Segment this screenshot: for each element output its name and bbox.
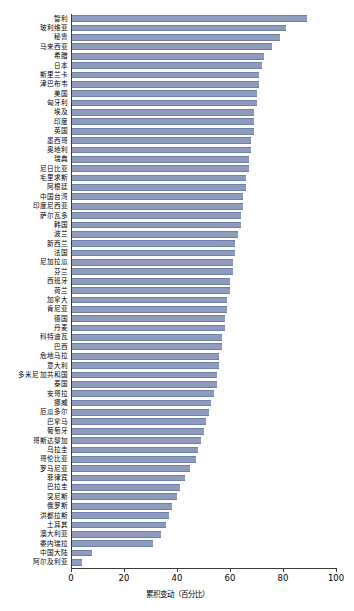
bar xyxy=(71,540,153,547)
category-label: 西班牙 xyxy=(47,278,68,285)
bar xyxy=(71,343,222,350)
x-tick xyxy=(336,568,337,572)
bar xyxy=(71,193,243,200)
bar xyxy=(71,362,219,369)
bar xyxy=(71,268,233,275)
category-label: 巴拿马 xyxy=(47,418,68,425)
bar-row: 埃及 xyxy=(71,108,336,117)
bar xyxy=(71,147,251,154)
bar-row: 瑞典 xyxy=(71,155,336,164)
bar-row: 土耳其 xyxy=(71,520,336,529)
bar-row: 玻利维亚 xyxy=(71,23,336,32)
bar xyxy=(71,400,211,407)
category-label: 英国 xyxy=(54,128,68,135)
bar xyxy=(71,81,259,88)
bar xyxy=(71,325,225,332)
category-label: 多米尼加共和国 xyxy=(18,371,68,378)
bar xyxy=(71,72,259,79)
x-tick-label: 40 xyxy=(172,573,183,583)
bar-row: 哥伦比亚 xyxy=(71,455,336,464)
category-label: 挪威 xyxy=(54,400,68,407)
bar-row: 巴西 xyxy=(71,342,336,351)
category-label: 新西兰 xyxy=(47,240,68,247)
bar xyxy=(71,259,233,266)
category-label: 加拿大 xyxy=(47,296,68,303)
category-label: 日本 xyxy=(54,62,68,69)
category-label: 泰国 xyxy=(54,381,68,388)
category-label: 葡萄牙 xyxy=(47,428,68,435)
category-label: 菲律宾 xyxy=(47,475,68,482)
bar-row: 肯尼亚 xyxy=(71,305,336,314)
category-label: 津巴布韦 xyxy=(40,81,68,88)
bar-row: 阿尔及利亚 xyxy=(71,558,336,567)
category-label: 波兰 xyxy=(54,231,68,238)
plot-area: 智利玻利维亚秘鲁马来西亚希腊日本斯里兰卡津巴布韦美国匈牙利埃及印度英国墨西哥奥地… xyxy=(71,14,336,568)
bar-row: 荷兰 xyxy=(71,286,336,295)
bar xyxy=(71,137,251,144)
category-label: 委内瑞拉 xyxy=(40,540,68,547)
bar xyxy=(71,128,254,135)
bar xyxy=(71,503,172,510)
category-label: 安哥拉 xyxy=(47,390,68,397)
category-label: 荷兰 xyxy=(54,287,68,294)
category-label: 匈牙利 xyxy=(47,100,68,107)
x-tick xyxy=(177,568,178,572)
bar xyxy=(71,522,166,529)
bar xyxy=(71,231,238,238)
bar xyxy=(71,250,235,257)
bar-row: 芬兰 xyxy=(71,267,336,276)
category-label: 美国 xyxy=(54,90,68,97)
bar xyxy=(71,297,227,304)
bar xyxy=(71,184,246,191)
bar xyxy=(71,15,307,22)
bar xyxy=(71,175,246,182)
bar xyxy=(71,428,204,435)
bar-row: 韩国 xyxy=(71,220,336,229)
category-label: 毛里求斯 xyxy=(40,175,68,182)
bar-row: 挪威 xyxy=(71,398,336,407)
category-label: 埃及 xyxy=(54,109,68,116)
bar xyxy=(71,484,180,491)
bar xyxy=(71,240,235,247)
bar-row: 科特迪瓦 xyxy=(71,333,336,342)
x-tick-label: 60 xyxy=(225,573,236,583)
bar-row: 巴拉圭 xyxy=(71,483,336,492)
bar xyxy=(71,559,82,566)
category-label: 斯里兰卡 xyxy=(40,71,68,78)
x-tick xyxy=(230,568,231,572)
bar xyxy=(71,287,230,294)
category-label: 洪都拉斯 xyxy=(40,512,68,519)
category-label: 奥地利 xyxy=(47,146,68,153)
bar xyxy=(71,203,243,210)
bar-row: 西班牙 xyxy=(71,277,336,286)
bar-row: 奥地利 xyxy=(71,145,336,154)
category-label: 尼日比亚 xyxy=(40,165,68,172)
bar-row: 法国 xyxy=(71,248,336,257)
category-label: 厄瓜多尔 xyxy=(40,409,68,416)
bar xyxy=(71,437,201,444)
category-label: 智利 xyxy=(54,15,68,22)
bar xyxy=(71,493,177,500)
category-label: 韩国 xyxy=(54,221,68,228)
bar-row: 尼日比亚 xyxy=(71,164,336,173)
bar-row: 突尼斯 xyxy=(71,492,336,501)
bar-row: 加拿大 xyxy=(71,295,336,304)
bar xyxy=(71,53,264,60)
category-label: 马来西亚 xyxy=(40,43,68,50)
category-label: 秘鲁 xyxy=(54,34,68,41)
category-label: 法国 xyxy=(54,250,68,257)
x-tick-label: 80 xyxy=(278,573,289,583)
category-label: 萨尔瓦多 xyxy=(40,212,68,219)
bar xyxy=(71,353,219,360)
bar-row: 萨尔瓦多 xyxy=(71,211,336,220)
bar-row: 葡萄牙 xyxy=(71,427,336,436)
bar-row: 洪都拉斯 xyxy=(71,511,336,520)
bar-row: 中国台湾 xyxy=(71,192,336,201)
bar-row: 波兰 xyxy=(71,230,336,239)
category-label: 丹麦 xyxy=(54,325,68,332)
x-tick xyxy=(124,568,125,572)
bar xyxy=(71,465,190,472)
bar-row: 津巴布韦 xyxy=(71,80,336,89)
bar-row: 新西兰 xyxy=(71,239,336,248)
category-label: 意大利 xyxy=(47,362,68,369)
